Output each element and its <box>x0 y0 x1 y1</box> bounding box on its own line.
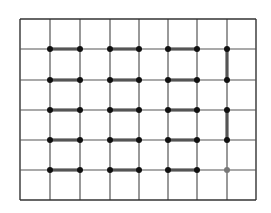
grid-node <box>107 107 113 113</box>
grid-node <box>47 137 53 143</box>
grid-node <box>224 167 230 173</box>
grid-node <box>136 167 142 173</box>
grid-node <box>107 77 113 83</box>
grid-node <box>136 46 142 52</box>
grid-node <box>107 46 113 52</box>
grid-node <box>136 137 142 143</box>
grid-diagram <box>0 0 271 213</box>
grid-node <box>224 137 230 143</box>
grid-node <box>224 77 230 83</box>
grid-node <box>194 167 200 173</box>
grid-node <box>47 77 53 83</box>
grid-node <box>165 137 171 143</box>
grid-node <box>165 107 171 113</box>
grid-node <box>77 77 83 83</box>
grid-node <box>77 167 83 173</box>
grid-node <box>47 46 53 52</box>
grid-node <box>77 107 83 113</box>
grid-node <box>136 77 142 83</box>
grid-node <box>165 167 171 173</box>
grid-node <box>107 137 113 143</box>
grid-node <box>47 167 53 173</box>
grid-node <box>224 107 230 113</box>
grid-node <box>47 107 53 113</box>
grid-node <box>136 107 142 113</box>
grid-node <box>194 137 200 143</box>
grid-node <box>194 46 200 52</box>
grid-node <box>77 137 83 143</box>
grid-node <box>165 77 171 83</box>
grid-node <box>107 167 113 173</box>
grid-node <box>77 46 83 52</box>
grid-node <box>194 107 200 113</box>
grid-node <box>224 46 230 52</box>
grid-node <box>165 46 171 52</box>
grid-node <box>194 77 200 83</box>
